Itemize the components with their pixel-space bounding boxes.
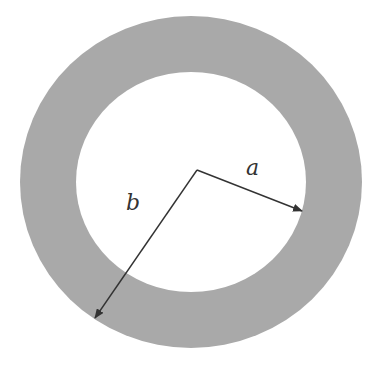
label-b: b xyxy=(126,190,140,215)
label-a: a xyxy=(246,155,259,180)
inner-circle xyxy=(76,72,306,292)
annulus-diagram: a b xyxy=(0,0,378,365)
